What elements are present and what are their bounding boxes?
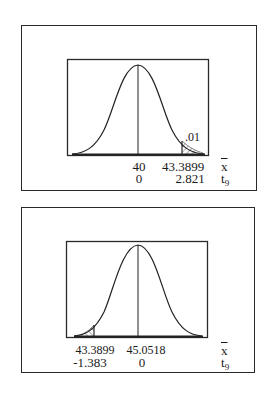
top-t-symbol: t9 xyxy=(221,172,229,190)
top-tail-area-label: .01 xyxy=(185,131,200,143)
top-t-tick-0: 0 xyxy=(136,172,143,185)
bottom-plot-frame xyxy=(67,242,208,338)
bottom-t-tick-0: -1.383 xyxy=(73,356,107,369)
bottom-xbar-tick-1: 45.0518 xyxy=(127,344,166,357)
bottom-t-tick-1: 0 xyxy=(139,356,146,369)
bottom-t-symbol: t9 xyxy=(221,356,229,374)
top-t-tick-1: 2.821 xyxy=(175,172,204,185)
bottom-t-curve-plot xyxy=(0,190,272,395)
